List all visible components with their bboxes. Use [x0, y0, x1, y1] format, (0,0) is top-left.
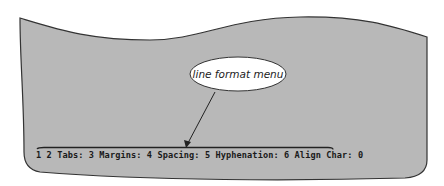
menu-key: 6	[284, 150, 289, 160]
menu-prefix: 1	[36, 150, 41, 160]
menu-key: 2	[47, 150, 52, 160]
menu-label: Margins:	[99, 150, 141, 160]
menu-label: Align Char:	[295, 150, 353, 160]
annotated-screen-figure: line format menu 1 2 Tabs: 3 Margins: 4 …	[0, 0, 444, 186]
menu-key: 3	[89, 150, 94, 160]
menu-label: Tabs:	[57, 150, 83, 160]
menu-item-tabs[interactable]: 2 Tabs:	[47, 150, 84, 160]
menu-item-spacing[interactable]: 4 Spacing:	[147, 150, 200, 160]
menu-item-margins[interactable]: 3 Margins:	[89, 150, 142, 160]
menu-item-align-char[interactable]: 6 Align Char:	[284, 150, 353, 160]
callout-label: line format menu	[190, 64, 286, 84]
line-format-menu: 1 2 Tabs: 3 Margins: 4 Spacing: 5 Hyphen…	[36, 150, 363, 160]
menu-label: Hyphenation:	[215, 150, 278, 160]
menu-item-hyphenation[interactable]: 5 Hyphenation:	[205, 150, 279, 160]
menu-key: 4	[147, 150, 152, 160]
menu-label: Spacing:	[157, 150, 199, 160]
menu-current-value: 0	[358, 150, 363, 160]
menu-key: 5	[205, 150, 210, 160]
